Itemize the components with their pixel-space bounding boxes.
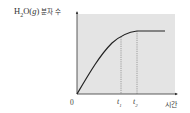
x-axis-arrow-icon (175, 93, 178, 95)
chart-plot (0, 0, 190, 113)
tick-t2: t2 (133, 97, 138, 108)
plot-background (77, 14, 175, 94)
y-axis-arrow-icon (76, 11, 78, 14)
origin-label: 0 (70, 98, 74, 107)
tick-t1: t1 (117, 97, 122, 108)
x-axis-label: 시간 (165, 99, 177, 109)
